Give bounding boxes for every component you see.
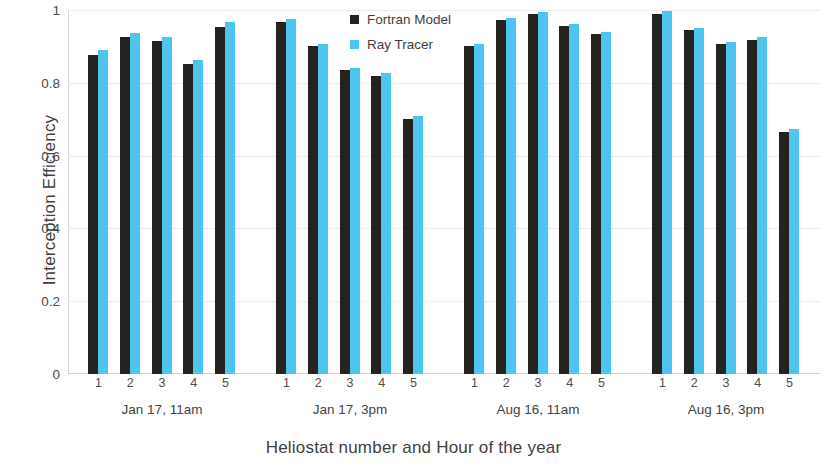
x-tick-label: 4 [747, 376, 768, 396]
group-label: Jan 17, 3pm [256, 402, 444, 424]
bar [318, 44, 328, 375]
bar [684, 30, 694, 374]
bar-pair [88, 10, 109, 374]
bar [162, 37, 172, 374]
legend-swatch-icon [350, 40, 359, 49]
group-label: Aug 16, 11am [444, 402, 632, 424]
bar [88, 55, 98, 374]
bar-group [444, 10, 632, 374]
legend-swatch-icon [350, 15, 359, 24]
x-tick-label: 3 [528, 376, 549, 396]
bar [716, 44, 726, 375]
legend-label: Ray Tracer [367, 37, 433, 52]
x-tick-label: 3 [152, 376, 173, 396]
bar [464, 46, 474, 374]
y-tick-label: 0.4 [16, 221, 60, 236]
x-tick-inner: 12345 [464, 376, 612, 396]
x-tick-label: 1 [464, 376, 485, 396]
legend-label: Fortran Model [367, 12, 451, 27]
x-tick-group: 12345 [68, 376, 256, 396]
bar [371, 76, 381, 374]
x-tick-label: 2 [684, 376, 705, 396]
bar [726, 42, 736, 374]
bar [601, 32, 611, 374]
x-tick-group: 12345 [444, 376, 632, 396]
x-tick-label: 4 [559, 376, 580, 396]
x-tick-label: 4 [183, 376, 204, 396]
x-axis-title: Heliostat number and Hour of the year [0, 438, 827, 458]
bar-pair [779, 10, 800, 374]
bar-pair [340, 10, 361, 374]
group-labels: Jan 17, 11amJan 17, 3pmAug 16, 11amAug 1… [68, 402, 820, 424]
x-tick-label: 2 [308, 376, 329, 396]
bar [193, 60, 203, 374]
bar-cluster [276, 10, 424, 374]
x-tick-inner: 12345 [88, 376, 236, 396]
bar [130, 33, 140, 374]
x-tick-label: 5 [403, 376, 424, 396]
bar [286, 19, 296, 374]
bar-pair [215, 10, 236, 374]
bar-pair [464, 10, 485, 374]
y-tick-label: 0.8 [16, 75, 60, 90]
x-tick-label: 2 [496, 376, 517, 396]
bar [538, 12, 548, 374]
bar-group [632, 10, 820, 374]
bar [757, 37, 767, 374]
bar-cluster [88, 10, 236, 374]
x-tick-label: 1 [88, 376, 109, 396]
y-axis-tick-labels: 00.20.40.60.81 [10, 10, 60, 374]
bar-pair [276, 10, 297, 374]
bar [694, 28, 704, 374]
x-tick-label: 1 [276, 376, 297, 396]
bar [789, 129, 799, 374]
group-label: Jan 17, 11am [68, 402, 256, 424]
bar-pair [496, 10, 517, 374]
bar-groups [68, 10, 820, 374]
bar-pair [591, 10, 612, 374]
legend-item: Ray Tracer [350, 37, 550, 52]
bar-pair [559, 10, 580, 374]
bar-group [256, 10, 444, 374]
bar [276, 22, 286, 374]
bar [120, 37, 130, 374]
bar-group [68, 10, 256, 374]
bar-pair [403, 10, 424, 374]
group-label: Aug 16, 3pm [632, 402, 820, 424]
bar-pair [652, 10, 673, 374]
bar [340, 70, 350, 374]
x-tick-label: 4 [371, 376, 392, 396]
bar [569, 24, 579, 374]
x-axis-tick-labels: 12345123451234512345 [68, 376, 820, 396]
bar-chart: Interception Efficiency 00.20.40.60.81 1… [0, 0, 827, 470]
x-tick-label: 3 [716, 376, 737, 396]
bar [474, 44, 484, 375]
bar [413, 116, 423, 374]
bar-pair [716, 10, 737, 374]
bar-pair [120, 10, 141, 374]
bar [350, 68, 360, 374]
x-tick-label: 5 [779, 376, 800, 396]
bar [496, 20, 506, 374]
bar [225, 22, 235, 374]
bar-pair [308, 10, 329, 374]
y-tick-label: 0 [16, 367, 60, 382]
bar [403, 119, 413, 374]
x-tick-inner: 12345 [652, 376, 800, 396]
bar [662, 11, 672, 374]
bar-pair [684, 10, 705, 374]
bar [308, 46, 318, 374]
bar-pair [152, 10, 173, 374]
bar [506, 18, 516, 374]
y-tick-label: 1 [16, 3, 60, 18]
x-tick-label: 3 [340, 376, 361, 396]
chart-legend: Fortran ModelRay Tracer [350, 12, 550, 62]
bar [528, 14, 538, 374]
x-tick-label: 5 [215, 376, 236, 396]
bar-cluster [464, 10, 612, 374]
x-tick-label: 1 [652, 376, 673, 396]
x-tick-label: 2 [120, 376, 141, 396]
legend-item: Fortran Model [350, 12, 550, 27]
y-tick-label: 0.2 [16, 294, 60, 309]
bar [381, 73, 391, 374]
